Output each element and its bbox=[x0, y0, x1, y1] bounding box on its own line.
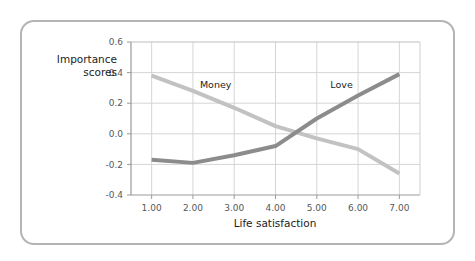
x-tick-label: 1.00 bbox=[142, 203, 162, 213]
y-axis-ticks bbox=[127, 42, 131, 195]
y-tick-label: 0.0 bbox=[109, 129, 124, 139]
x-tick-label: 2.00 bbox=[183, 203, 203, 213]
x-axis-title: Life satisfaction bbox=[234, 217, 317, 229]
y-tick-label: -0.4 bbox=[105, 190, 123, 200]
series-annotation-money: Money bbox=[200, 79, 232, 90]
y-axis-title-line2: scores bbox=[83, 66, 117, 78]
series-annotation-love: Love bbox=[330, 79, 353, 90]
x-tick-label: 7.00 bbox=[389, 203, 409, 213]
y-tick-label: 0.6 bbox=[109, 37, 124, 47]
x-tick-label: 6.00 bbox=[348, 203, 368, 213]
x-tick-label: 4.00 bbox=[265, 203, 285, 213]
y-tick-label: -0.2 bbox=[105, 160, 123, 170]
x-axis-ticks bbox=[152, 195, 400, 199]
x-tick-label: 3.00 bbox=[224, 203, 244, 213]
x-tick-label: 5.00 bbox=[307, 203, 327, 213]
line-chart: 0.60.40.20.0-0.2-0.4 1.002.003.004.005.0… bbox=[0, 0, 475, 261]
x-axis-tick-labels: 1.002.003.004.005.006.007.00 bbox=[142, 203, 410, 213]
y-axis-title-line1: Importance bbox=[57, 53, 117, 65]
y-tick-label: 0.2 bbox=[109, 98, 123, 108]
